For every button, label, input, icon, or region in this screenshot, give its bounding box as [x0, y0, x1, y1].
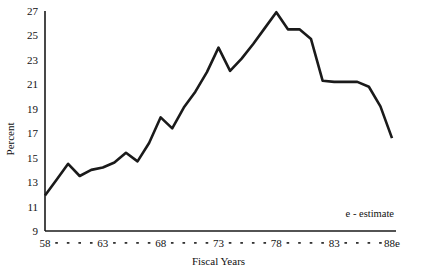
y-axis-title: Percent	[4, 123, 16, 156]
estimate-annotation: e - estimate	[346, 208, 395, 219]
chart-container: 9111315171921232527Percent58636873788388…	[0, 0, 423, 272]
x-axis-tick-label: 63	[97, 237, 109, 249]
y-axis-tick-label: 17	[27, 127, 39, 139]
x-axis-tick-label: 83	[329, 237, 341, 249]
x-axis-minor-tick	[183, 242, 186, 244]
x-axis-minor-tick	[148, 242, 151, 244]
x-axis-tick-label: 78	[271, 237, 283, 249]
x-axis-minor-tick	[229, 242, 232, 244]
y-axis-tick-label: 23	[27, 54, 39, 66]
x-axis-minor-tick	[67, 242, 70, 244]
x-axis-minor-tick	[321, 242, 324, 244]
x-axis-tick-label: 68	[155, 237, 167, 249]
x-axis-minor-tick	[344, 242, 347, 244]
x-axis-minor-tick	[90, 242, 93, 244]
x-axis-tick-label: 88e	[384, 237, 400, 249]
x-axis-minor-tick	[206, 242, 209, 244]
data-series-line	[45, 12, 392, 195]
x-axis-minor-tick	[113, 242, 116, 244]
x-axis-minor-tick	[287, 242, 290, 244]
x-axis-minor-tick	[194, 242, 197, 244]
x-axis-minor-tick	[368, 242, 371, 244]
x-axis-tick-label: 73	[213, 237, 225, 249]
x-axis-minor-tick	[263, 242, 266, 244]
x-axis-minor-tick	[125, 242, 128, 244]
y-axis-tick-label: 27	[27, 5, 39, 17]
y-axis-tick-label: 11	[27, 201, 38, 213]
y-axis-tick-label: 15	[27, 152, 39, 164]
x-axis-minor-tick	[78, 242, 81, 244]
x-axis-minor-tick	[356, 242, 359, 244]
x-axis-title: Fiscal Years	[192, 255, 245, 267]
y-axis-tick-label: 21	[27, 78, 38, 90]
x-axis-minor-tick	[298, 242, 301, 244]
line-chart: 9111315171921232527Percent58636873788388…	[0, 0, 423, 272]
x-axis-minor-tick	[252, 242, 255, 244]
y-axis-tick-label: 25	[27, 29, 39, 41]
x-axis-minor-tick	[240, 242, 243, 244]
y-axis-tick-label: 19	[27, 103, 39, 115]
x-axis-minor-tick	[136, 242, 139, 244]
y-axis-tick-label: 9	[33, 225, 39, 237]
x-axis-minor-tick	[171, 242, 174, 244]
x-axis-tick-label: 58	[40, 237, 52, 249]
x-axis-minor-tick	[55, 242, 58, 244]
x-axis-minor-tick	[310, 242, 313, 244]
y-axis-tick-label: 13	[27, 176, 39, 188]
x-axis-minor-tick	[379, 242, 382, 244]
